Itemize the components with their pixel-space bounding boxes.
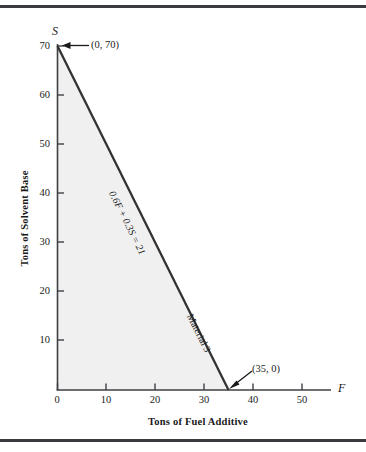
y-axis-title: Tons of Solvent Base: [19, 129, 30, 309]
y-tick-label: 50: [28, 138, 50, 149]
annotation-arrow-bottom: [229, 371, 252, 389]
x-tick-label: 40: [240, 394, 266, 405]
annotation-label-intercept-f: (35, 0): [252, 363, 280, 374]
annotation-arrow-top: [62, 42, 89, 49]
x-tick-label: 0: [44, 394, 70, 405]
y-tick-label: 70: [28, 40, 50, 51]
x-axis-symbol: F: [338, 381, 345, 396]
y-tick-label: 10: [28, 334, 50, 345]
annotation-label-intercept-s: (0, 70): [91, 39, 119, 50]
plot-area: [0, 0, 366, 452]
x-tick-label: 20: [142, 394, 168, 405]
y-tick-label: 60: [28, 89, 50, 100]
x-axis-title: Tons of Fuel Additive: [0, 416, 366, 427]
x-tick-label: 10: [93, 394, 119, 405]
y-axis-symbol: S: [52, 24, 58, 39]
y-tick-label: 30: [28, 236, 50, 247]
y-tick-label: 40: [28, 187, 50, 198]
y-tick-label: 20: [28, 285, 50, 296]
figure-container: S F 70 60 50 40 30 20 10 0 10 20 30 40 5…: [0, 0, 366, 452]
x-tick-label: 30: [191, 394, 217, 405]
x-tick-label: 50: [289, 394, 315, 405]
